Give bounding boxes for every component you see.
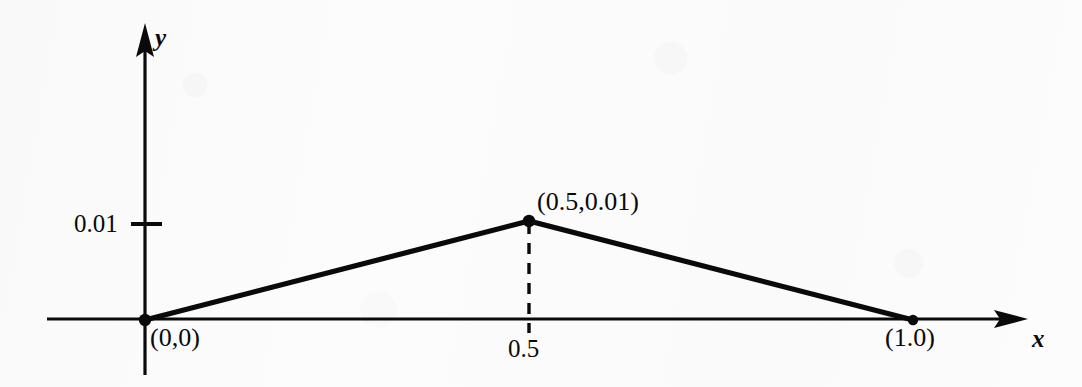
figure-canvas: y x 0.01 0.5 (0,0) (0.5,0.01) (1.0) <box>0 0 1082 387</box>
x-tick-label-0.5: 0.5 <box>508 336 539 361</box>
y-tick-label-0.01: 0.01 <box>74 211 118 236</box>
data-point-peak <box>523 215 535 227</box>
x-axis-label: x <box>1032 326 1045 351</box>
point-label-end: (1.0) <box>885 325 935 351</box>
point-label-peak: (0.5,0.01) <box>537 189 639 215</box>
y-axis-label: y <box>155 25 166 50</box>
point-label-origin: (0,0) <box>150 325 200 351</box>
